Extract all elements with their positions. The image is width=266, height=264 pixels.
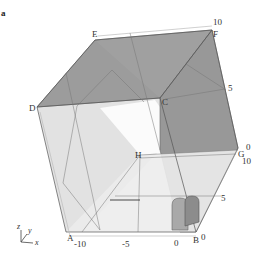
b-zero-tick: 0 xyxy=(201,233,206,242)
vertex-label-a: A xyxy=(67,234,74,243)
axis-z-label: z xyxy=(17,222,20,231)
vertex-label-e: E xyxy=(92,30,98,39)
vertex-label-d: D xyxy=(29,104,36,113)
axis-x-label: x xyxy=(35,238,39,247)
z-tick-10: 10 xyxy=(213,18,222,27)
vertex-label-c: C xyxy=(162,98,168,107)
panel-label: a xyxy=(1,8,6,18)
y-tick-5: 5 xyxy=(221,194,226,203)
axes-orientation-glyph: z y x xyxy=(13,222,43,250)
vertex-label-b: B xyxy=(193,236,199,245)
vertex-label-h: H xyxy=(135,151,142,160)
x-tick-0: 0 xyxy=(174,239,179,248)
vertex-label-f: F xyxy=(213,30,218,39)
x-tick-neg5: -5 xyxy=(122,240,130,249)
x-tick-neg10: -10 xyxy=(74,240,86,249)
g-zero-tick: 0 xyxy=(246,143,251,152)
axis-y-label: y xyxy=(28,226,32,235)
y-tick-10: 10 xyxy=(242,157,251,166)
figure-canvas: a E F D C H G A B 10 5 0 10 5 0 -10 -5 0… xyxy=(0,0,266,264)
z-tick-5: 5 xyxy=(228,84,233,93)
